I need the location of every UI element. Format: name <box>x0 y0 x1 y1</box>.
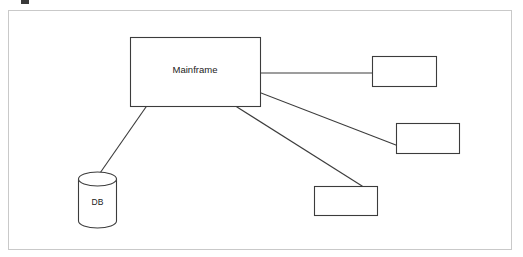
node-right-middle-shape[interactable] <box>397 124 460 154</box>
node-bottom-center-shape[interactable] <box>315 187 378 216</box>
node-right-top-shape[interactable] <box>373 57 437 87</box>
node-db[interactable]: DB <box>79 172 117 228</box>
node-mainframe[interactable]: Mainframe <box>131 38 261 107</box>
node-bottom-center[interactable] <box>315 187 378 216</box>
node-db-label: DB <box>92 197 104 207</box>
node-right-top[interactable] <box>373 57 437 87</box>
node-mainframe-label: Mainframe <box>173 64 218 75</box>
db-cylinder-top <box>79 172 117 186</box>
node-right-middle[interactable] <box>397 124 460 154</box>
diagram-svg: Mainframe DB <box>0 0 523 257</box>
diagram-canvas: Mainframe DB <box>0 0 523 257</box>
